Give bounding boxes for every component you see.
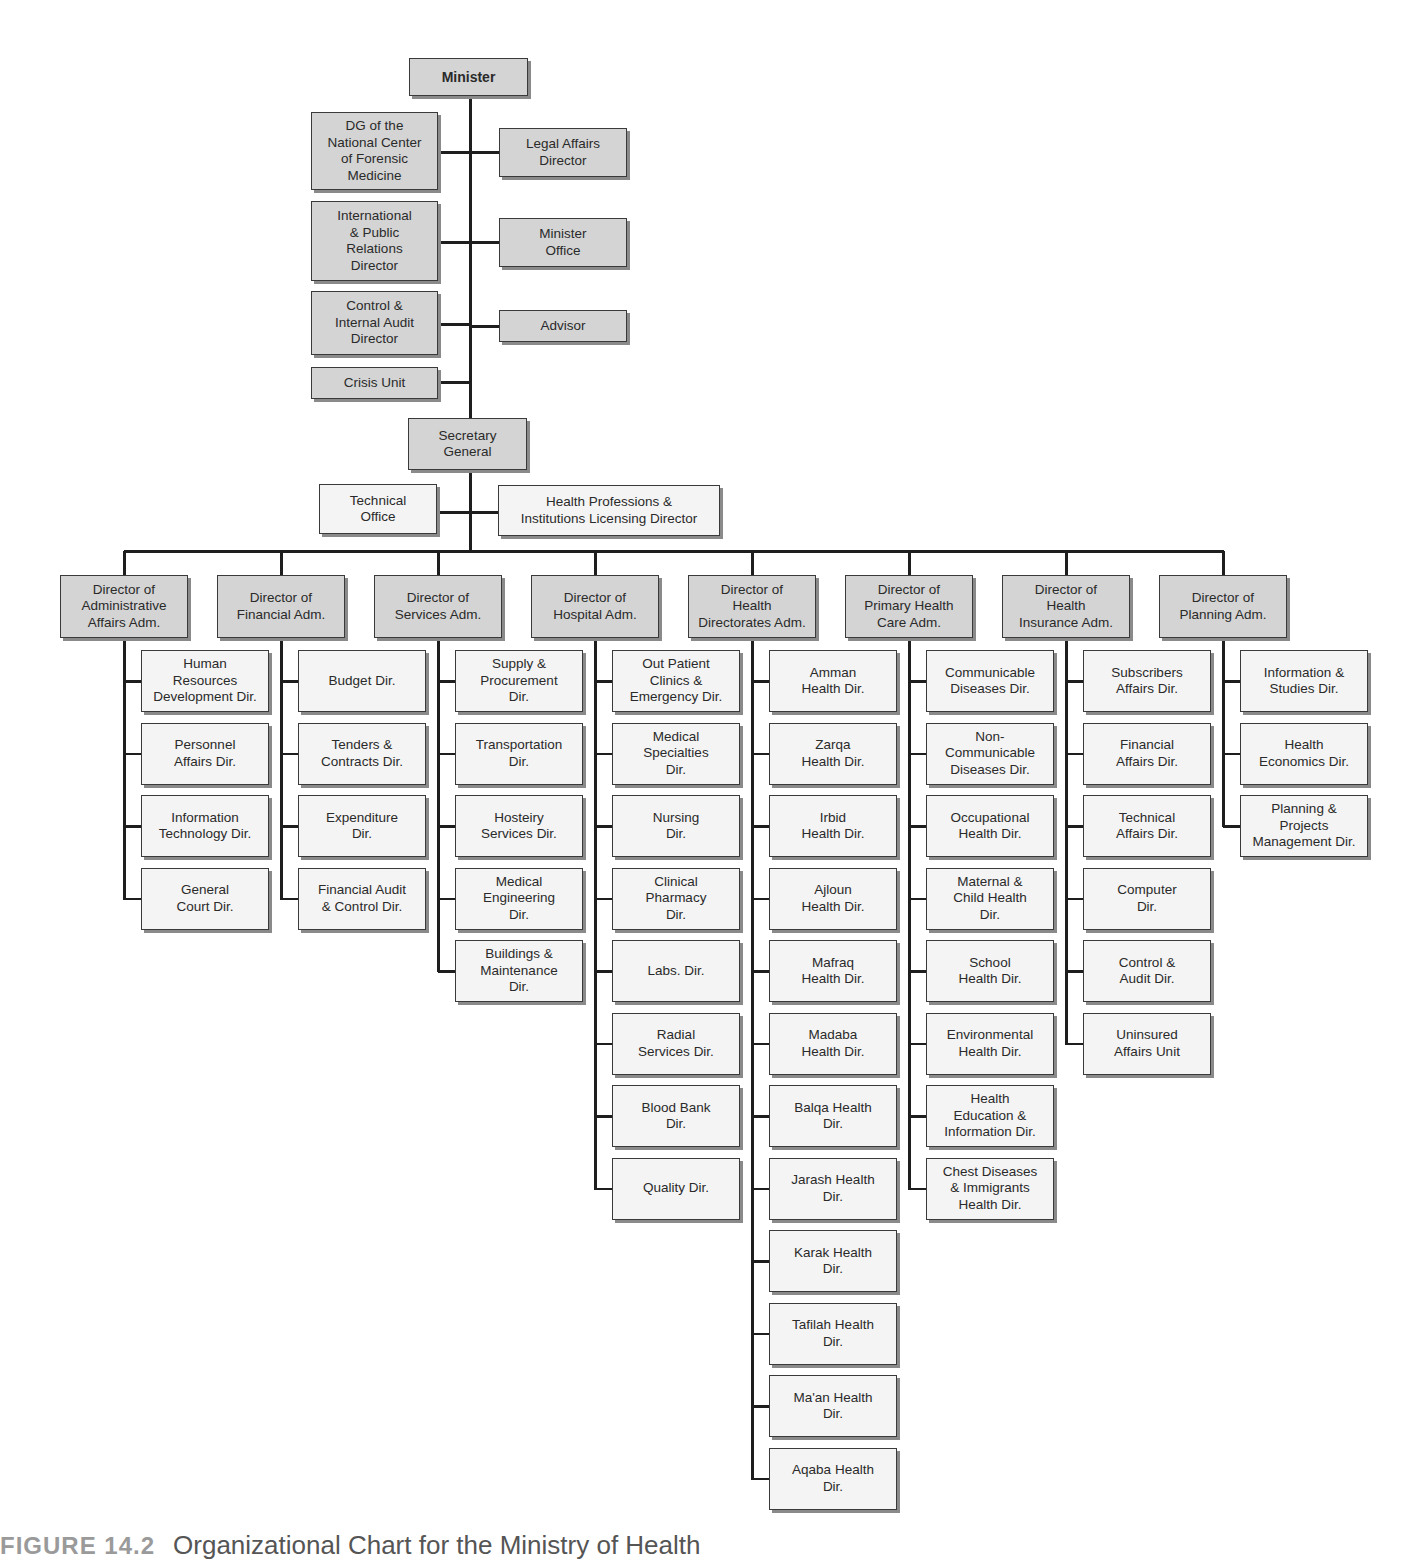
director-box-director-of-health-insurance-adm: Director of Health Insurance Adm. bbox=[1002, 575, 1130, 638]
staff-connector bbox=[470, 241, 499, 244]
directorate-box-buildings-maintenance-dir: Buildings & Maintenance Dir. bbox=[455, 940, 583, 1002]
department-branch-line bbox=[123, 638, 126, 900]
directorate-box-technical-affairs-dir: Technical Affairs Dir. bbox=[1083, 795, 1211, 857]
directorate-box-environmental-health-dir: Environmental Health Dir. bbox=[926, 1013, 1054, 1075]
child-connector bbox=[752, 970, 769, 973]
child-connector bbox=[752, 753, 769, 756]
director-box-director-of-hospital-adm: Director of Hospital Adm. bbox=[531, 575, 659, 638]
child-connector bbox=[1066, 1043, 1083, 1046]
child-connector bbox=[909, 1043, 926, 1046]
director-box-director-of-primary-health-care-adm: Director of Primary Health Care Adm. bbox=[845, 575, 973, 638]
staff-connector bbox=[470, 511, 498, 514]
directorate-box-general-court-dir: General Court Dir. bbox=[141, 868, 269, 930]
directorate-box-ma-an-health-dir: Ma'an Health Dir. bbox=[769, 1375, 897, 1437]
child-connector bbox=[752, 825, 769, 828]
directorate-box-uninsured-affairs-unit: Uninsured Affairs Unit bbox=[1083, 1013, 1211, 1075]
directorate-box-mafraq-health-dir: Mafraq Health Dir. bbox=[769, 940, 897, 1002]
unit-box-crisis-unit: Crisis Unit bbox=[311, 367, 438, 399]
figure-label: FIGURE 14.2 bbox=[0, 1532, 155, 1559]
child-connector bbox=[595, 970, 612, 973]
department-drop-line bbox=[594, 551, 597, 575]
child-connector bbox=[595, 1115, 612, 1118]
child-connector bbox=[438, 970, 455, 973]
directorate-box-planning-projects-management-dir: Planning & Projects Management Dir. bbox=[1240, 795, 1368, 857]
child-connector bbox=[1066, 825, 1083, 828]
directorate-box-balqa-health-dir: Balqa Health Dir. bbox=[769, 1085, 897, 1147]
directorate-box-health-education-information-dir: Health Education & Information Dir. bbox=[926, 1085, 1054, 1147]
child-connector bbox=[1066, 753, 1083, 756]
directorate-box-aqaba-health-dir: Aqaba Health Dir. bbox=[769, 1448, 897, 1510]
directorate-box-quality-dir: Quality Dir. bbox=[612, 1158, 740, 1220]
child-connector bbox=[752, 1043, 769, 1046]
child-connector bbox=[909, 1188, 926, 1191]
child-connector bbox=[281, 898, 298, 901]
child-connector bbox=[281, 825, 298, 828]
child-connector bbox=[752, 898, 769, 901]
child-connector bbox=[909, 970, 926, 973]
department-branch-line bbox=[280, 638, 283, 900]
department-drop-line bbox=[123, 551, 126, 575]
child-connector bbox=[1066, 680, 1083, 683]
directorate-box-irbid-health-dir: Irbid Health Dir. bbox=[769, 795, 897, 857]
directorate-box-maternal-child-health-dir: Maternal & Child Health Dir. bbox=[926, 868, 1054, 930]
unit-box-advisor: Advisor bbox=[499, 310, 627, 342]
child-connector bbox=[124, 825, 141, 828]
directorate-box-madaba-health-dir: Madaba Health Dir. bbox=[769, 1013, 897, 1075]
child-connector bbox=[752, 1188, 769, 1191]
unit-box-minister-office: Minister Office bbox=[499, 218, 627, 267]
child-connector bbox=[752, 680, 769, 683]
child-connector bbox=[595, 1043, 612, 1046]
staff-connector bbox=[470, 325, 499, 328]
department-branch-line bbox=[594, 638, 597, 1190]
child-connector bbox=[752, 1333, 769, 1336]
child-connector bbox=[752, 1405, 769, 1408]
director-box-director-of-services-adm: Director of Services Adm. bbox=[374, 575, 502, 638]
department-bus-line bbox=[124, 550, 1224, 553]
directorate-box-information-technology-dir: Information Technology Dir. bbox=[141, 795, 269, 857]
staff-connector bbox=[438, 381, 470, 384]
department-drop-line bbox=[1222, 551, 1225, 575]
directorate-box-amman-health-dir: Amman Health Dir. bbox=[769, 650, 897, 712]
directorate-box-expenditure-dir: Expenditure Dir. bbox=[298, 795, 426, 857]
staff-connector bbox=[438, 323, 470, 326]
directorate-box-communicable-diseases-dir: Communicable Diseases Dir. bbox=[926, 650, 1054, 712]
unit-box-dg-of-the-national-center-of-forensic-medicine: DG of the National Center of Forensic Me… bbox=[311, 112, 438, 190]
staff-connector bbox=[438, 151, 470, 154]
figure-caption: FIGURE 14.2Organizational Chart for the … bbox=[0, 1530, 701, 1561]
child-connector bbox=[438, 753, 455, 756]
child-connector bbox=[438, 898, 455, 901]
directorate-box-out-patient-clinics-emergency-dir: Out Patient Clinics & Emergency Dir. bbox=[612, 650, 740, 712]
directorate-box-tenders-contracts-dir: Tenders & Contracts Dir. bbox=[298, 723, 426, 785]
directorate-box-tafilah-health-dir: Tafilah Health Dir. bbox=[769, 1303, 897, 1365]
directorate-box-supply-procurement-dir: Supply & Procurement Dir. bbox=[455, 650, 583, 712]
director-box-director-of-financial-adm: Director of Financial Adm. bbox=[217, 575, 345, 638]
child-connector bbox=[1066, 898, 1083, 901]
department-branch-line bbox=[908, 638, 911, 1190]
department-drop-line bbox=[751, 551, 754, 575]
child-connector bbox=[752, 1115, 769, 1118]
child-connector bbox=[752, 1478, 769, 1481]
child-connector bbox=[124, 753, 141, 756]
staff-connector bbox=[437, 511, 470, 514]
directorate-box-school-health-dir: School Health Dir. bbox=[926, 940, 1054, 1002]
child-connector bbox=[1223, 825, 1240, 828]
director-box-director-of-administrative-affairs-adm: Director of Administrative Affairs Adm. bbox=[60, 575, 188, 638]
child-connector bbox=[1066, 970, 1083, 973]
directorate-box-budget-dir: Budget Dir. bbox=[298, 650, 426, 712]
child-connector bbox=[595, 898, 612, 901]
directorate-box-labs-dir: Labs. Dir. bbox=[612, 940, 740, 1002]
minister-box: Minister bbox=[409, 58, 528, 96]
department-drop-line bbox=[437, 551, 440, 575]
directorate-box-information-studies-dir: Information & Studies Dir. bbox=[1240, 650, 1368, 712]
directorate-box-clinical-pharmacy-dir: Clinical Pharmacy Dir. bbox=[612, 868, 740, 930]
director-box-director-of-health-directorates-adm: Director of Health Directorates Adm. bbox=[688, 575, 816, 638]
directorate-box-hosteiry-services-dir: Hosteiry Services Dir. bbox=[455, 795, 583, 857]
staff-connector bbox=[438, 241, 470, 244]
technical-office-box: Technical Office bbox=[319, 484, 437, 534]
directorate-box-ajloun-health-dir: Ajloun Health Dir. bbox=[769, 868, 897, 930]
directorate-box-karak-health-dir: Karak Health Dir. bbox=[769, 1230, 897, 1292]
directorate-box-medical-engineering-dir: Medical Engineering Dir. bbox=[455, 868, 583, 930]
child-connector bbox=[1223, 753, 1240, 756]
child-connector bbox=[438, 680, 455, 683]
